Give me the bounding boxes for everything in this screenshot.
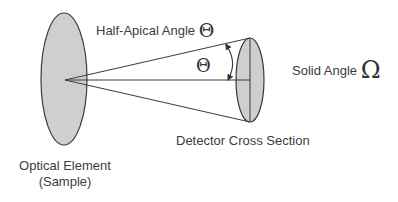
inner-theta-label: Θ — [196, 57, 211, 75]
cone-lower-line — [65, 80, 250, 122]
solid-angle-label: Solid Angle Ω — [292, 58, 381, 82]
half-apical-angle-label: Half-Apical Angle Θ — [96, 21, 214, 40]
optical-element-label-line1: Optical Element — [0, 158, 130, 174]
optical-element-ellipse — [41, 13, 87, 145]
angle-arc-arrow-icon — [227, 46, 233, 78]
optical-element-label-line2: (Sample) — [0, 174, 130, 190]
half-apical-angle-text: Half-Apical Angle — [96, 23, 195, 38]
detector-cross-section-label: Detector Cross Section — [176, 134, 310, 147]
theta-symbol: Θ — [199, 19, 215, 41]
optical-element-label: Optical Element (Sample) — [0, 158, 130, 190]
cone-upper-line — [65, 38, 250, 80]
solid-angle-text: Solid Angle — [292, 63, 357, 78]
omega-symbol: Ω — [361, 56, 381, 84]
